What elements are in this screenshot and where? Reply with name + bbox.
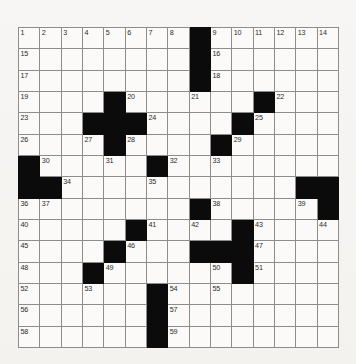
crossword-cell[interactable]	[40, 113, 61, 134]
crossword-cell[interactable]	[274, 241, 295, 262]
crossword-cell[interactable]: 19	[19, 91, 40, 112]
crossword-cell[interactable]	[189, 113, 210, 134]
crossword-cell[interactable]: 17	[19, 70, 40, 91]
crossword-cell[interactable]: 11	[253, 28, 274, 49]
crossword-cell[interactable]: 1	[19, 28, 40, 49]
crossword-cell[interactable]: 5	[104, 28, 125, 49]
crossword-cell[interactable]	[253, 198, 274, 219]
crossword-cell[interactable]: 8	[168, 28, 189, 49]
crossword-cell[interactable]: 18	[210, 70, 231, 91]
crossword-cell[interactable]: 41	[146, 219, 167, 240]
crossword-cell[interactable]: 7	[146, 28, 167, 49]
crossword-cell[interactable]	[61, 134, 82, 155]
crossword-cell[interactable]	[317, 262, 338, 283]
crossword-cell[interactable]	[40, 49, 61, 70]
crossword-cell[interactable]: 13	[296, 28, 317, 49]
crossword-cell[interactable]	[189, 326, 210, 347]
crossword-cell[interactable]: 6	[125, 28, 146, 49]
crossword-cell[interactable]	[317, 134, 338, 155]
crossword-cell[interactable]	[253, 70, 274, 91]
crossword-cell[interactable]: 28	[125, 134, 146, 155]
crossword-cell[interactable]	[317, 91, 338, 112]
crossword-cell[interactable]: 33	[210, 155, 231, 176]
crossword-cell[interactable]	[168, 70, 189, 91]
crossword-cell[interactable]	[125, 305, 146, 326]
crossword-cell[interactable]	[82, 49, 103, 70]
crossword-cell[interactable]: 43	[253, 219, 274, 240]
crossword-cell[interactable]	[189, 283, 210, 304]
crossword-cell[interactable]	[40, 70, 61, 91]
crossword-cell[interactable]: 49	[104, 262, 125, 283]
crossword-cell[interactable]	[296, 70, 317, 91]
crossword-cell[interactable]: 57	[168, 305, 189, 326]
crossword-cell[interactable]	[232, 198, 253, 219]
crossword-cell[interactable]	[104, 49, 125, 70]
crossword-cell[interactable]	[232, 49, 253, 70]
crossword-cell[interactable]	[232, 326, 253, 347]
crossword-cell[interactable]: 22	[274, 91, 295, 112]
crossword-cell[interactable]	[125, 262, 146, 283]
crossword-cell[interactable]	[232, 305, 253, 326]
crossword-cell[interactable]	[210, 326, 231, 347]
crossword-cell[interactable]	[253, 177, 274, 198]
crossword-cell[interactable]: 59	[168, 326, 189, 347]
crossword-cell[interactable]	[296, 134, 317, 155]
crossword-cell[interactable]	[189, 305, 210, 326]
crossword-cell[interactable]	[317, 155, 338, 176]
crossword-cell[interactable]	[210, 113, 231, 134]
crossword-cell[interactable]: 55	[210, 283, 231, 304]
crossword-cell[interactable]	[296, 219, 317, 240]
crossword-cell[interactable]	[146, 198, 167, 219]
crossword-cell[interactable]	[82, 198, 103, 219]
crossword-cell[interactable]	[168, 49, 189, 70]
crossword-cell[interactable]: 38	[210, 198, 231, 219]
crossword-cell[interactable]	[40, 219, 61, 240]
crossword-cell[interactable]	[125, 70, 146, 91]
crossword-cell[interactable]	[82, 326, 103, 347]
crossword-cell[interactable]	[125, 326, 146, 347]
crossword-cell[interactable]	[296, 113, 317, 134]
crossword-cell[interactable]	[146, 262, 167, 283]
crossword-cell[interactable]: 45	[19, 241, 40, 262]
crossword-cell[interactable]: 27	[82, 134, 103, 155]
crossword-cell[interactable]	[61, 283, 82, 304]
crossword-cell[interactable]	[168, 91, 189, 112]
crossword-cell[interactable]: 58	[19, 326, 40, 347]
crossword-cell[interactable]: 29	[232, 134, 253, 155]
crossword-cell[interactable]	[146, 91, 167, 112]
crossword-cell[interactable]: 32	[168, 155, 189, 176]
crossword-cell[interactable]: 14	[317, 28, 338, 49]
crossword-cell[interactable]	[296, 91, 317, 112]
crossword-cell[interactable]	[296, 155, 317, 176]
crossword-cell[interactable]	[125, 155, 146, 176]
crossword-cell[interactable]	[82, 219, 103, 240]
crossword-cell[interactable]	[189, 177, 210, 198]
crossword-cell[interactable]: 9	[210, 28, 231, 49]
crossword-cell[interactable]: 26	[19, 134, 40, 155]
crossword-cell[interactable]	[61, 219, 82, 240]
crossword-cell[interactable]	[61, 262, 82, 283]
crossword-cell[interactable]: 56	[19, 305, 40, 326]
crossword-cell[interactable]: 37	[40, 198, 61, 219]
crossword-cell[interactable]	[104, 177, 125, 198]
crossword-cell[interactable]: 20	[125, 91, 146, 112]
crossword-cell[interactable]	[125, 283, 146, 304]
crossword-cell[interactable]	[253, 326, 274, 347]
crossword-cell[interactable]	[317, 113, 338, 134]
crossword-cell[interactable]	[210, 219, 231, 240]
crossword-cell[interactable]	[317, 326, 338, 347]
crossword-cell[interactable]	[40, 262, 61, 283]
crossword-cell[interactable]	[61, 241, 82, 262]
crossword-cell[interactable]	[274, 134, 295, 155]
crossword-cell[interactable]	[274, 262, 295, 283]
crossword-cell[interactable]	[274, 198, 295, 219]
crossword-cell[interactable]	[274, 326, 295, 347]
crossword-cell[interactable]	[104, 70, 125, 91]
crossword-cell[interactable]	[189, 134, 210, 155]
crossword-cell[interactable]	[104, 283, 125, 304]
crossword-cell[interactable]: 51	[253, 262, 274, 283]
crossword-cell[interactable]	[274, 219, 295, 240]
crossword-cell[interactable]: 39	[296, 198, 317, 219]
crossword-cell[interactable]	[296, 262, 317, 283]
crossword-cell[interactable]	[40, 305, 61, 326]
